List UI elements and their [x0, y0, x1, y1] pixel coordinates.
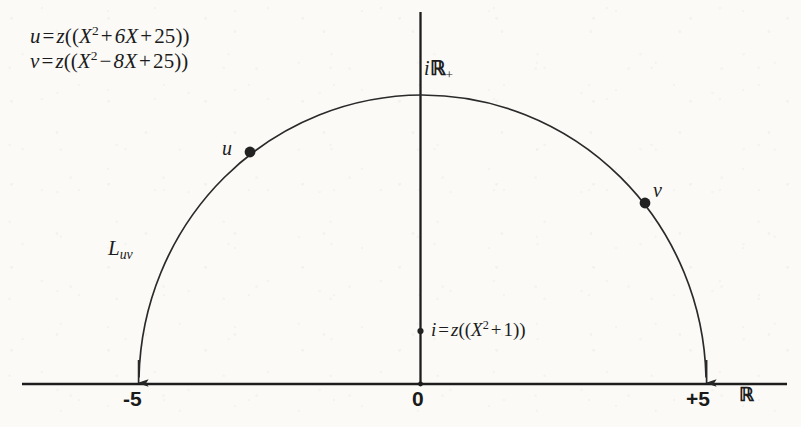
formula-v-op1: − [98, 49, 114, 73]
geodesic-label-subscript: uv [120, 247, 133, 262]
point-i-op1: + [489, 319, 504, 340]
point-i-open-parens: (( [458, 319, 471, 340]
point-marker-v [640, 198, 651, 209]
imaginary-axis-subscript: + [446, 67, 453, 82]
point-i-close-parens: )) [513, 319, 526, 340]
formula-u-term1: X [79, 24, 92, 48]
point-marker-i [417, 328, 423, 334]
formula-v-term2: 8X [114, 49, 138, 73]
formula-line-u: u=z((X2+6X+25)) [30, 26, 190, 47]
formula-u-lhs: u [30, 24, 41, 48]
point-label-v: v [653, 180, 662, 200]
geodesic-label-base: L [108, 236, 120, 260]
geodesic-label: Luv [108, 238, 133, 259]
point-i-equals: = [436, 319, 451, 340]
formula-v-close-parens: )) [174, 49, 188, 73]
formula-v-term3: 25 [153, 49, 174, 73]
imaginary-axis-label: iℝ+ [424, 58, 453, 78]
point-i-term2: 1 [503, 319, 513, 340]
tick-label-minus-5: -5 [123, 387, 142, 411]
formula-u-open-parens: (( [65, 24, 79, 48]
formula-u-op1: + [99, 24, 115, 48]
formula-v-op2: + [137, 49, 153, 73]
formula-line-v: v=z((X2−8X+25)) [30, 51, 190, 72]
figure-canvas: u=z((X2+6X+25)) v=z((X2−8X+25)) iℝ+ ℝ -5… [0, 0, 801, 427]
formula-u-term2: 6X [115, 24, 139, 48]
tick-label-plus-5: +5 [686, 387, 710, 411]
origin-marker [418, 382, 423, 387]
formula-u-op2: + [138, 24, 154, 48]
formula-u-function: z [57, 24, 65, 48]
point-i-exponent: 2 [483, 318, 489, 332]
formula-u-equals: = [41, 24, 57, 48]
formula-v-open-parens: (( [64, 49, 78, 73]
formula-u-term3: 25 [154, 24, 175, 48]
formula-v-lhs: v [30, 49, 39, 73]
point-label-i-equation: i=z((X2+1)) [431, 320, 526, 339]
point-i-term1: X [471, 319, 483, 340]
real-axis-label: ℝ [739, 385, 754, 404]
imaginary-axis-symbol: ℝ [430, 57, 446, 79]
tick-label-zero: 0 [412, 387, 424, 411]
formula-u-close-parens: )) [175, 24, 189, 48]
point-label-u: u [222, 138, 232, 158]
formula-v-function: z [55, 49, 63, 73]
point-marker-u [245, 147, 256, 158]
formula-u-exponent: 2 [92, 23, 99, 38]
formula-v-exponent: 2 [91, 48, 98, 63]
formula-v-equals: = [39, 49, 55, 73]
formula-v-term1: X [78, 49, 91, 73]
formula-block: u=z((X2+6X+25)) v=z((X2−8X+25)) [30, 26, 190, 76]
